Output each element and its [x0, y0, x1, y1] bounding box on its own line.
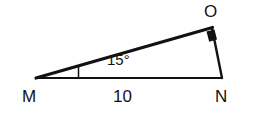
right-angle-marker-icon [207, 30, 218, 42]
triangle-figure: M N O 10 15° [0, 0, 255, 119]
angle-measure-label-m: 15° [107, 52, 130, 67]
side-length-label-mn: 10 [113, 88, 132, 105]
vertex-label-o: O [204, 3, 217, 20]
vertex-label-m: M [22, 88, 36, 105]
vertex-label-n: N [215, 88, 227, 105]
